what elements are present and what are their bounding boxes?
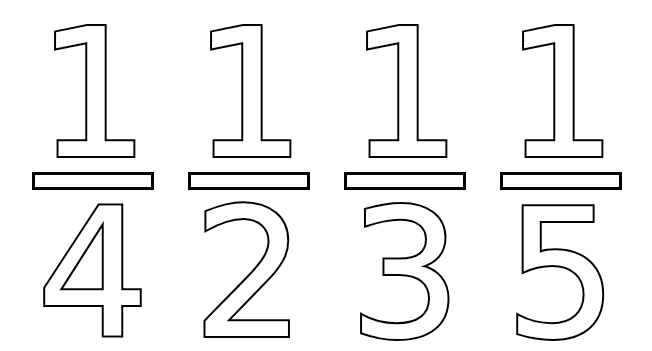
denominator: 3 [340, 186, 470, 351]
numerator: 1 [340, 6, 470, 184]
numerator: 1 [184, 6, 314, 184]
numerator: 1 [496, 6, 626, 184]
fraction-one-fifth: 1 5 [496, 0, 626, 351]
denominator: 2 [184, 186, 314, 351]
denominator: 4 [28, 186, 158, 351]
fraction-one-quarter: 1 4 [28, 0, 158, 351]
fraction-one-half: 1 2 [184, 0, 314, 351]
numerator: 1 [28, 6, 158, 184]
denominator: 5 [496, 186, 626, 351]
fraction-one-third: 1 3 [340, 0, 470, 351]
